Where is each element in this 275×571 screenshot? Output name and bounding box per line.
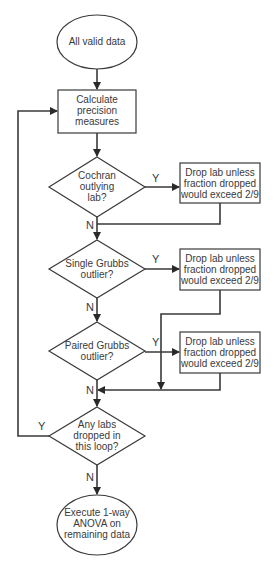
cochran-line-2: outlying bbox=[80, 181, 114, 192]
paired-yes-label: Y bbox=[152, 336, 160, 348]
drop1-line-1: Drop lab unless bbox=[185, 167, 254, 178]
any-line-2: dropped in bbox=[73, 430, 120, 441]
start-label: All valid data bbox=[69, 36, 126, 47]
drop3-line-3: would exceed 2/9 bbox=[180, 358, 259, 369]
cochran-line-3: lab? bbox=[88, 192, 107, 203]
any-line-1: Any labs bbox=[78, 419, 116, 430]
single-grubbs-decision: Single Grubbs outlier? bbox=[49, 240, 145, 298]
paired-line-1: Paired Grubbs bbox=[65, 340, 129, 351]
drop1-line-3: would exceed 2/9 bbox=[180, 189, 259, 200]
loop-back-line bbox=[18, 111, 57, 436]
drop2-line-1: Drop lab unless bbox=[185, 253, 254, 264]
calculate-node: Calculate precision measures bbox=[58, 90, 136, 133]
single-line-1: Single Grubbs bbox=[65, 258, 128, 269]
calc-line-2: precision bbox=[77, 105, 117, 116]
flowchart: All valid data Calculate precision measu… bbox=[0, 0, 275, 571]
end-line-1: Execute 1-way bbox=[64, 507, 130, 518]
drop-lab-box-2: Drop lab unless fraction dropped would e… bbox=[180, 249, 260, 290]
cochran-line-1: Cochran bbox=[78, 170, 116, 181]
start-node: All valid data bbox=[57, 15, 137, 69]
calc-line-3: measures bbox=[75, 116, 119, 127]
any-yes-label: Y bbox=[38, 420, 46, 432]
end-line-2: ANOVA on bbox=[73, 518, 121, 529]
cochran-no-label: N bbox=[86, 219, 94, 231]
end-node: Execute 1-way ANOVA on remaining data bbox=[57, 495, 137, 555]
drop1-line-2: fraction dropped bbox=[184, 178, 256, 189]
drop-lab-box-1: Drop lab unless fraction dropped would e… bbox=[180, 163, 260, 203]
single-no-label: N bbox=[86, 301, 94, 313]
single-line-2: outlier? bbox=[81, 269, 114, 280]
drop2-line-3: would exceed 2/9 bbox=[180, 275, 259, 286]
paired-grubbs-decision: Paired Grubbs outlier? bbox=[49, 322, 145, 380]
drop2-line-2: fraction dropped bbox=[184, 264, 256, 275]
cochran-decision: Cochran outlying lab? bbox=[49, 157, 145, 217]
drop3-line-2: fraction dropped bbox=[184, 347, 256, 358]
any-line-3: this loop? bbox=[76, 441, 119, 452]
calc-line-1: Calculate bbox=[76, 94, 118, 105]
end-line-3: remaining data bbox=[64, 529, 131, 540]
cochran-yes-label: Y bbox=[152, 172, 160, 184]
drop-lab-box-3: Drop lab unless fraction dropped would e… bbox=[180, 332, 260, 373]
paired-line-2: outlier? bbox=[81, 351, 114, 362]
single-yes-label: Y bbox=[152, 253, 160, 265]
paired-no-label: N bbox=[86, 384, 94, 396]
drop3-line-1: Drop lab unless bbox=[185, 336, 254, 347]
any-labs-dropped-decision: Any labs dropped in this loop? bbox=[49, 407, 145, 465]
merge-line-3 bbox=[98, 373, 220, 390]
any-no-label: N bbox=[86, 471, 94, 483]
